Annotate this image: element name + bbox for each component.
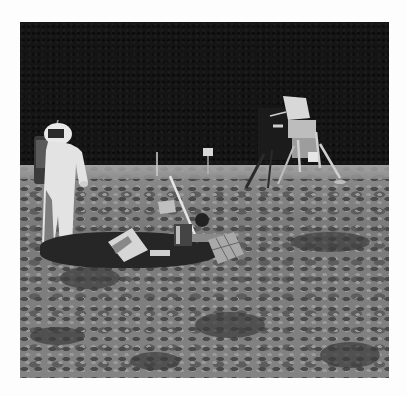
astronaut bbox=[32, 120, 90, 250]
surface-patch bbox=[130, 352, 180, 370]
surface-patch bbox=[320, 342, 380, 368]
lunar-photograph bbox=[20, 22, 389, 378]
surface-patch bbox=[30, 327, 85, 345]
surface-patch bbox=[290, 232, 370, 252]
surface-patch bbox=[195, 312, 265, 338]
tv-camera bbox=[200, 146, 216, 174]
scientific-experiment-package bbox=[88, 172, 248, 272]
